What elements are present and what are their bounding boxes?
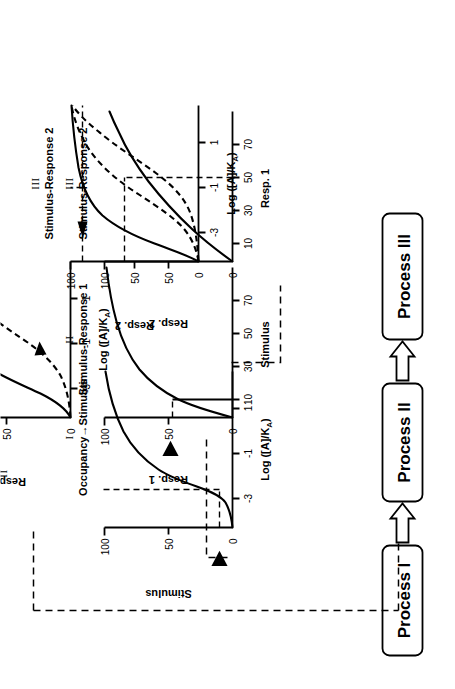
process-chain: Process I Process II Process III [382,213,422,655]
process-box-1-label: Process I [394,562,413,638]
panel-III-right-title: Stimulus-Response 2 [42,127,54,239]
process-box-2[interactable]: Process II [382,383,422,501]
process-box-3[interactable]: Process III [382,213,422,339]
panel-II-right-xtick-n1: -1 [80,338,91,347]
panel-III-right-ytick-100: 100 [65,272,76,289]
panel-I-xtick-n1: -1 [242,448,253,457]
panel-II-left-ytick-50: 50 [163,428,174,440]
panel-III-left-ytick-100: 100 [99,272,110,289]
panel-III-left-ytick-50: 50 [163,272,174,284]
panel-I-ytick-100: 100 [99,538,110,555]
panel-II-left-xlabel: Stimulus [258,321,270,367]
panel-I-roman: I [62,435,74,439]
scientific-figure: Process I Process II Process III [0,0,455,689]
panel-III-right-xtick-n3: -3 [208,227,219,236]
panel-II-right-ytick-50: 50 [1,428,12,440]
panel-II-left-xtick-10: 10 [242,393,253,405]
panel-III-right-roman: III [28,177,40,190]
panel-II-left-xtick-70: 70 [242,294,253,306]
process-box-3-label: Process III [394,233,413,318]
rotated-figure-container: Process I Process II Process III [0,0,455,689]
panel-III-right-ytick-50: 50 [129,272,140,284]
panel-II-left-xtick-50: 50 [242,327,253,339]
panel-I-xtick-n3: -3 [242,493,253,502]
panel-III-right-xtick-n1: -1 [208,182,219,191]
figure-canvas: Process I Process II Process III [0,0,455,689]
panel-III-left-xtick-50: 50 [242,171,253,183]
panel-III-left-xlabel: Resp. 1 [258,168,270,207]
panel-III-left-xtick-30: 30 [242,204,253,216]
panel-III-left-xtick-70: 70 [242,138,253,150]
panel-III-left-xtick-10: 10 [242,237,253,249]
panel-II-left-ytick-100: 100 [99,428,110,445]
panel-II-right-xtick-n3: -3 [80,383,91,392]
panel-III-right-ylabel: Resp. 2 [114,319,153,331]
process-box-1[interactable]: Process I [382,545,422,655]
panel-I-ylabel: Stimulus [145,587,191,599]
panel-II-right-ylabel: Resp. 2 [0,475,26,487]
panel-II-left-roman: II [62,335,74,343]
panel-II-left-xtick-30: 30 [242,360,253,372]
process-box-2-label: Process II [394,402,413,482]
panel-I-ytick-50: 50 [163,538,174,550]
panel-II-left-ylabel: Resp. 1 [148,473,187,485]
